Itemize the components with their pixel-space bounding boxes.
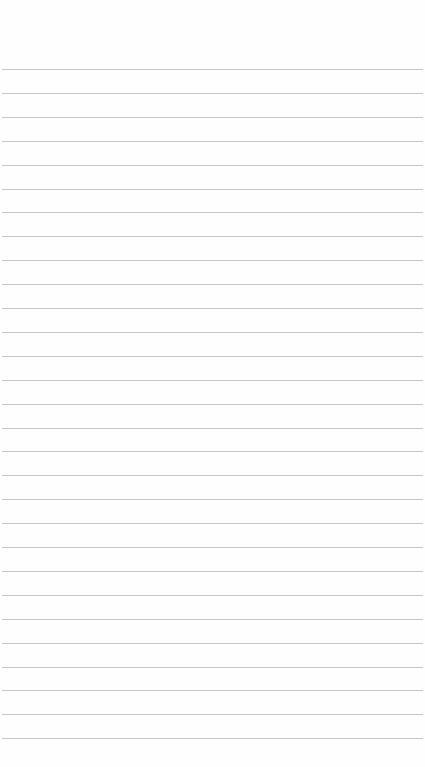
ruled-line (2, 236, 423, 237)
ruled-line (2, 380, 423, 381)
ruled-line (2, 523, 423, 524)
ruled-line (2, 499, 423, 500)
ruled-line (2, 260, 423, 261)
ruled-line (2, 738, 423, 739)
ruled-line (2, 165, 423, 166)
lined-paper-sheet (0, 0, 425, 767)
ruled-line (2, 547, 423, 548)
ruled-line (2, 117, 423, 118)
ruled-line (2, 475, 423, 476)
ruled-line (2, 141, 423, 142)
ruled-line (2, 595, 423, 596)
ruled-line (2, 714, 423, 715)
ruled-line (2, 332, 423, 333)
ruled-line (2, 428, 423, 429)
ruled-line (2, 356, 423, 357)
ruled-line (2, 451, 423, 452)
ruled-line (2, 619, 423, 620)
ruled-line (2, 643, 423, 644)
ruled-line (2, 69, 423, 70)
ruled-line (2, 667, 423, 668)
ruled-line (2, 690, 423, 691)
ruled-line (2, 93, 423, 94)
ruled-line (2, 284, 423, 285)
ruled-line (2, 212, 423, 213)
ruled-line (2, 189, 423, 190)
ruled-line (2, 308, 423, 309)
ruled-line (2, 404, 423, 405)
ruled-line (2, 571, 423, 572)
